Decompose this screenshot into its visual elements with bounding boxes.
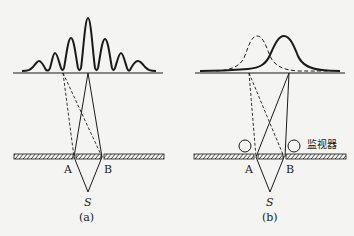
panel-a	[13, 18, 164, 192]
barrier-b	[194, 154, 346, 159]
path-solid-to-A	[74, 73, 88, 157]
slit-label-A-b: A	[245, 164, 253, 175]
slit-label-B-a: B	[104, 164, 112, 175]
source-label-a: S	[84, 197, 92, 208]
source-to-A	[74, 157, 88, 192]
path-dashed-to-B-b	[249, 73, 284, 157]
slit-label-B-b: B	[286, 164, 294, 175]
interference-pattern	[22, 18, 156, 71]
path-dashed-to-A-b	[249, 73, 256, 157]
monitor-A-icon	[239, 140, 251, 152]
barrier-a	[14, 154, 164, 159]
diagram-canvas	[0, 0, 354, 236]
caption-a: (a)	[79, 212, 94, 223]
single-slit-pattern-B	[200, 36, 340, 71]
source-label-b: S	[266, 197, 274, 208]
path-dashed-to-A	[63, 73, 74, 157]
source-to-A-b	[256, 157, 270, 192]
path-solid-to-A-b	[256, 73, 289, 157]
monitor-label: 监视器	[307, 140, 337, 150]
slit-label-A-a: A	[64, 164, 72, 175]
path-solid-to-B	[88, 73, 102, 157]
source-to-B-b	[270, 157, 284, 192]
single-slit-pattern-A	[216, 36, 330, 71]
caption-b: (b)	[262, 212, 278, 223]
panel-b	[194, 36, 346, 192]
monitor-B-icon	[288, 140, 300, 152]
source-to-B	[88, 157, 102, 192]
